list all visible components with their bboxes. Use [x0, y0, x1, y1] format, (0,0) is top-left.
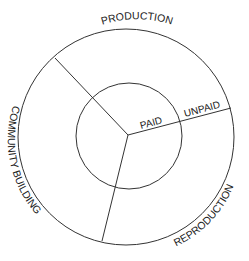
label-reproduction: REPRODUCTION [172, 182, 236, 248]
divider-community-reproduction [102, 135, 128, 241]
inner-circle [76, 83, 182, 189]
divider-production-community [55, 58, 128, 135]
diagram-canvas: PRODUCTION COMMUNITY BUILDING REPRODUCTI… [0, 0, 249, 261]
outer-circle [18, 29, 234, 245]
label-production: PRODUCTION [99, 9, 174, 26]
label-community-building: COMMUNITY BUILDING [6, 105, 45, 216]
